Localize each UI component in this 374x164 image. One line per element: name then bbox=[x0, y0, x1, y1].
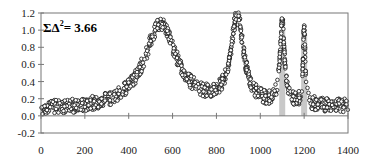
x-tick-label: 400 bbox=[120, 144, 137, 156]
y-tick-label: 1.2 bbox=[21, 7, 35, 19]
y-tick-label: 0.8 bbox=[21, 41, 35, 53]
y-tick-label: 0.0 bbox=[21, 110, 35, 122]
x-tick-label: 600 bbox=[164, 144, 181, 156]
scatter-chart: -0.20.00.20.40.60.81.01.2 02004006008001… bbox=[0, 0, 374, 164]
x-axis: 0200400600800100012001400 bbox=[38, 113, 359, 156]
y-tick-label: -0.2 bbox=[18, 127, 35, 139]
y-tick-label: 1.0 bbox=[21, 24, 35, 36]
y-tick-label: 0.2 bbox=[21, 93, 35, 105]
x-tick-label: 800 bbox=[208, 144, 225, 156]
x-tick-label: 1000 bbox=[249, 144, 272, 156]
x-tick-label: 1400 bbox=[337, 144, 360, 156]
x-tick-label: 0 bbox=[38, 144, 44, 156]
x-tick-label: 1200 bbox=[293, 144, 316, 156]
sum-squared-deviation-label: ΣΔ2= 3.66 bbox=[43, 19, 98, 35]
x-tick-label: 200 bbox=[77, 144, 94, 156]
y-tick-label: 0.6 bbox=[21, 58, 35, 70]
y-axis: -0.20.00.20.40.60.81.01.2 bbox=[18, 7, 44, 139]
y-tick-label: 0.4 bbox=[21, 76, 35, 88]
